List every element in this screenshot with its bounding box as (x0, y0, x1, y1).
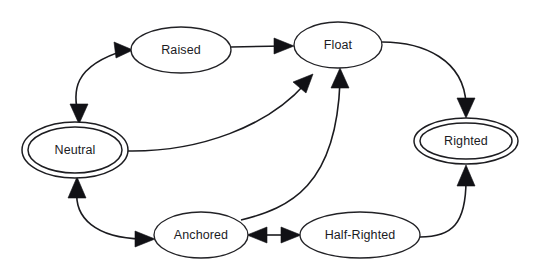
edge-anchored-float-arrowhead (331, 68, 349, 88)
edge-float-righted[interactable] (382, 42, 475, 118)
edge-neutral-raised-arrowhead-to-neutral (70, 104, 88, 124)
node-raised-label: Raised (161, 43, 201, 57)
edge-neutral-float-arrowhead (293, 74, 313, 93)
edge-anchored-half-righted[interactable] (247, 227, 301, 243)
node-anchored-label: Anchored (174, 228, 228, 242)
node-raised[interactable]: Raised (131, 27, 231, 73)
node-righted-label: Righted (444, 134, 488, 148)
node-half-righted-label: Half-Righted (325, 228, 396, 242)
node-anchored[interactable]: Anchored (154, 212, 248, 258)
state-diagram-container: Neutral Raised Float Righted Anchor (0, 0, 538, 272)
state-transition-diagram: Neutral Raised Float Righted Anchor (0, 0, 538, 272)
node-neutral-label: Neutral (55, 143, 96, 157)
nodes-layer: Neutral Raised Float Righted Anchor (22, 22, 518, 258)
edge-neutral-raised[interactable] (70, 42, 133, 124)
edge-half-righted-righted[interactable] (420, 165, 475, 237)
edge-neutral-anchored[interactable] (68, 177, 155, 247)
edge-raised-float[interactable] (231, 38, 294, 54)
node-float[interactable]: Float (294, 22, 382, 68)
edge-neutral-anchored-arrowhead-to-neutral (68, 177, 86, 198)
node-righted[interactable]: Righted (414, 118, 518, 164)
edge-anchored-float[interactable] (241, 68, 349, 220)
node-float-label: Float (324, 38, 353, 52)
edge-anchored-float-path (241, 82, 340, 220)
node-half-righted[interactable]: Half-Righted (300, 212, 420, 258)
edge-neutral-anchored-path (77, 190, 142, 239)
edge-half-righted-righted-path (420, 180, 466, 237)
edge-half-righted-righted-arrowhead (457, 165, 475, 186)
edge-float-righted-arrowhead (457, 98, 475, 118)
edge-neutral-float-path (128, 84, 305, 151)
edge-neutral-float[interactable] (128, 74, 313, 151)
edge-float-righted-path (382, 42, 466, 104)
edge-anchored-half-righted-arrowhead-to-anchored (247, 227, 267, 243)
edge-anchored-half-righted-arrowhead-to-half-righted (281, 227, 301, 243)
edge-neutral-raised-arrowhead-to-raised (114, 42, 133, 58)
node-neutral[interactable]: Neutral (22, 122, 128, 178)
edge-raised-float-arrowhead (274, 38, 294, 54)
edge-neutral-anchored-arrowhead-to-anchored (135, 231, 155, 247)
